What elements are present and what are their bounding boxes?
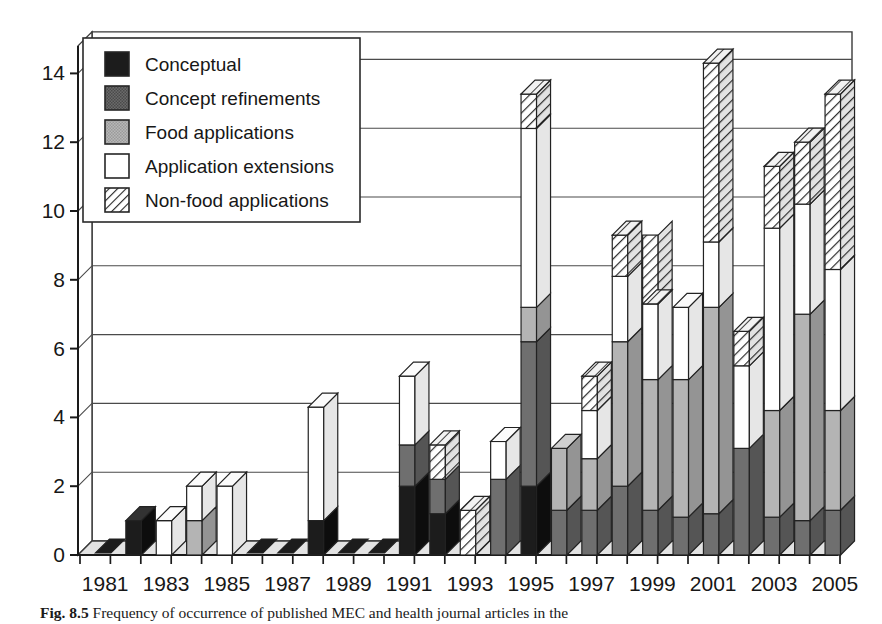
y-tick-label: 10 — [42, 199, 65, 222]
bar-column — [612, 221, 642, 555]
bar-column — [825, 80, 855, 555]
legend-swatch-food_applications — [105, 120, 129, 144]
y-tick-label: 14 — [42, 61, 66, 84]
bar-column — [491, 427, 521, 555]
bar-column — [582, 362, 612, 555]
bar-column — [430, 431, 460, 555]
bar-column — [187, 472, 217, 555]
x-tick-label: 1989 — [325, 572, 372, 595]
x-tick-label: 1983 — [143, 572, 190, 595]
bar-column — [643, 221, 673, 555]
y-tick-label: 8 — [53, 268, 65, 291]
legend-swatch-application_extensions — [105, 154, 129, 178]
x-tick-label: 1995 — [507, 572, 554, 595]
bar-column — [217, 472, 247, 555]
bar-column — [795, 128, 825, 555]
bar-column — [308, 393, 338, 555]
bar-column — [703, 49, 733, 555]
stacked-bar-chart: 02468101214 1981198319851987198919911993… — [0, 0, 882, 624]
figure-caption: Fig. 8.5 Frequency of occurrence of publ… — [40, 604, 568, 621]
y-tick-label: 12 — [42, 130, 65, 153]
legend-label-non_food_applications: Non-food applications — [145, 190, 329, 211]
y-axis: 02468101214 — [42, 46, 78, 566]
x-tick-label: 1981 — [82, 572, 129, 595]
legend-label-application_extensions: Application extensions — [145, 156, 334, 177]
bar-column — [551, 434, 581, 555]
x-tick-label: 1993 — [447, 572, 494, 595]
y-tick-label: 6 — [53, 337, 65, 360]
figure-container: 02468101214 1981198319851987198919911993… — [0, 0, 882, 624]
x-axis: 1981198319851987198919911993199519971999… — [78, 555, 858, 595]
legend-swatch-conceptual — [105, 52, 129, 76]
x-tick-label: 2005 — [811, 572, 858, 595]
y-tick-label: 2 — [53, 474, 65, 497]
y-tick-label: 4 — [53, 405, 65, 428]
caption-line: Fig. 8.5 Frequency of occurrence of publ… — [40, 604, 568, 621]
y-tick-label: 0 — [53, 543, 65, 566]
legend-swatch-non_food_applications — [105, 188, 129, 212]
x-tick-label: 1985 — [203, 572, 250, 595]
caption-body: Frequency of occurrence of published MEC… — [93, 604, 569, 621]
bar-column — [460, 496, 490, 555]
x-tick-label: 2003 — [751, 572, 798, 595]
legend-label-food_applications: Food applications — [145, 122, 294, 143]
x-tick-label: 1997 — [568, 572, 615, 595]
bar-column — [399, 362, 429, 555]
legend-label-conceptual: Conceptual — [145, 54, 241, 75]
chart-legend: ConceptualConcept refinementsFood applic… — [83, 38, 360, 222]
bar-column — [673, 293, 703, 555]
legend-swatch-concept_refinements — [105, 86, 129, 110]
caption-figure-number: Fig. 8.5 — [40, 604, 93, 621]
bar-column — [521, 80, 551, 555]
bar-column — [734, 317, 764, 555]
bar-column — [764, 152, 794, 555]
x-tick-label: 1987 — [264, 572, 311, 595]
legend-label-concept_refinements: Concept refinements — [145, 88, 320, 109]
x-tick-label: 1991 — [386, 572, 433, 595]
x-tick-label: 2001 — [690, 572, 737, 595]
x-tick-label: 1999 — [629, 572, 676, 595]
